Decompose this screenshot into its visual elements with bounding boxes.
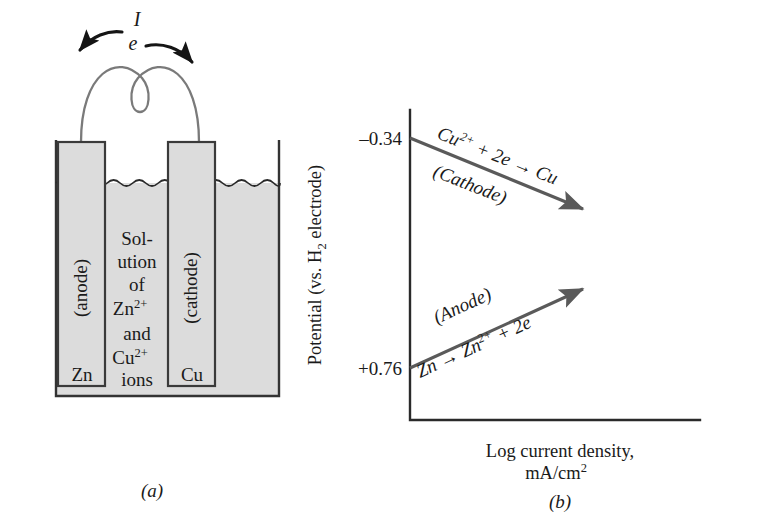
y-tick-label-anode: +0.76 [358, 358, 402, 379]
y-axis-label: Potential (vs. H2 electrode) [305, 165, 329, 365]
x-axis-label-exponent: 2 [581, 461, 587, 475]
solution-cu-charge: 2+ [134, 346, 147, 360]
solution-line-3: of [129, 274, 146, 295]
anode-material-label: Zn [71, 364, 93, 385]
current-symbol-label: I [133, 8, 142, 30]
y-axis-label-tail: electrode) [305, 165, 326, 244]
y-axis-label-head: Potential (vs. H [305, 250, 326, 366]
figure-canvas: I e (anode) (cathode) Zn Cu Sol- ution o… [0, 0, 762, 523]
panel-b-caption: (b) [549, 491, 571, 513]
anode-reaction-part2: + 2e [489, 311, 534, 347]
connecting-wire [81, 67, 199, 142]
solution-zn-text: Zn [113, 298, 135, 319]
x-axis-label-units: mA/cm [525, 463, 581, 483]
electron-flow-arrow [146, 45, 192, 62]
solution-line-5: and [123, 323, 151, 344]
anode-role-label: (anode) [70, 259, 92, 317]
cathode-role-label: (cathode) [180, 252, 202, 324]
anode-reaction-part1: Zn → Zn [413, 334, 484, 382]
x-axis-label-line1: Log current density, [486, 441, 634, 461]
current-direction-arrow [80, 32, 122, 50]
x-axis-label-line2: mA/cm2 [525, 461, 587, 483]
panel-a-caption: (a) [141, 480, 163, 502]
solution-line-7: ions [121, 369, 153, 390]
anode-reaction-label: Zn → Zn2+ + 2e [413, 310, 535, 381]
panel-b-polarization-chart: –0.34 +0.76 Potential (vs. H2 electrode)… [305, 110, 700, 513]
cathode-reaction-part1: Cu [435, 122, 463, 150]
solution-cu-text: Cu [112, 347, 135, 368]
anode-role-label-chart: (Anode) [430, 283, 495, 328]
panel-a-cell-diagram: I e (anode) (cathode) Zn Cu Sol- ution o… [56, 8, 280, 502]
y-tick-label-cathode: –0.34 [358, 128, 402, 149]
figure-root: I e (anode) (cathode) Zn Cu Sol- ution o… [0, 0, 762, 523]
cathode-material-label: Cu [181, 364, 204, 385]
solution-line-2: ution [117, 251, 157, 272]
solution-zn-charge: 2+ [134, 297, 147, 311]
cathode-role-label: (Cathode) [430, 160, 510, 209]
electron-symbol-label: e [129, 32, 138, 54]
solution-line-1: Sol- [121, 228, 153, 249]
